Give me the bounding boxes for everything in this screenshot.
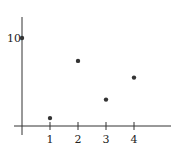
- y-ticks: 10: [7, 32, 21, 45]
- x-tick-label: 4: [131, 133, 138, 146]
- data-point: [132, 75, 136, 79]
- data-points: [20, 36, 136, 120]
- data-point: [104, 97, 108, 101]
- x-tick-label: 2: [75, 133, 82, 146]
- y-tick-label: 10: [7, 32, 21, 45]
- data-point: [48, 116, 52, 120]
- data-point: [20, 36, 24, 40]
- x-tick-label: 3: [103, 133, 110, 146]
- data-point: [76, 59, 80, 63]
- x-tick-label: 1: [47, 133, 54, 146]
- scatter-chart: 1234 10: [0, 0, 179, 155]
